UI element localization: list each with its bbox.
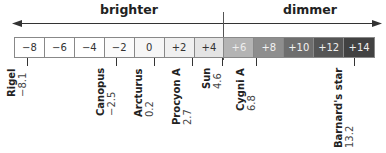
arrow-right-icon: [372, 19, 382, 28]
star-name: Arcturus: [133, 68, 144, 117]
star-label: Cygni A6.8: [235, 68, 257, 111]
star-label: Sun4.6: [201, 68, 223, 89]
star-tick: [192, 58, 193, 66]
scale-cell: +6: [224, 38, 254, 57]
star-label: Barnard's star13.2: [333, 68, 355, 148]
star-tick: [256, 58, 257, 66]
star-magnitude: 13.2: [344, 126, 355, 148]
star-label: Canopus−2.5: [95, 68, 117, 116]
magnitude-scale: −8−6−4−20+2+4+6+8+10+12+14: [14, 37, 375, 58]
dimmer-label: dimmer: [283, 2, 337, 17]
star-tick: [27, 58, 28, 66]
brighter-label: brighter: [100, 2, 158, 17]
star-name: Procyon A: [171, 68, 182, 125]
star-name: Cygni A: [235, 68, 246, 111]
scale-cell: +2: [165, 38, 195, 57]
scale-cell: −4: [75, 38, 105, 57]
arrow-left-icon: [12, 19, 22, 28]
star-magnitude: −2.5: [106, 92, 117, 116]
scale-cell: +14: [344, 38, 374, 57]
star-label: Arcturus0.2: [133, 68, 155, 117]
star-name: Barnard's star: [333, 68, 344, 148]
star-magnitude: 6.8: [246, 95, 257, 111]
scale-cell: −2: [105, 38, 135, 57]
scale-cell: 0: [135, 38, 165, 57]
star-name: Canopus: [95, 68, 106, 116]
scale-cell: −8: [15, 38, 45, 57]
star-tick: [222, 58, 223, 66]
star-tick: [354, 58, 355, 66]
scale-cell: +8: [254, 38, 284, 57]
star-magnitude: −8.1: [17, 73, 28, 97]
star-name: Sun: [201, 68, 212, 89]
star-label: Rigel−8.1: [6, 69, 28, 98]
star-magnitude: 4.6: [212, 73, 223, 89]
star-magnitude: 0.2: [144, 101, 155, 117]
star-magnitude: 2.7: [182, 109, 193, 125]
star-label: Procyon A2.7: [171, 68, 193, 125]
scale-cell: +4: [195, 38, 225, 57]
star-name: Rigel: [6, 69, 17, 98]
star-tick: [116, 58, 117, 66]
scale-cell: +10: [284, 38, 314, 57]
scale-cell: −6: [45, 38, 75, 57]
star-tick: [154, 58, 155, 66]
scale-cell: +12: [314, 38, 344, 57]
